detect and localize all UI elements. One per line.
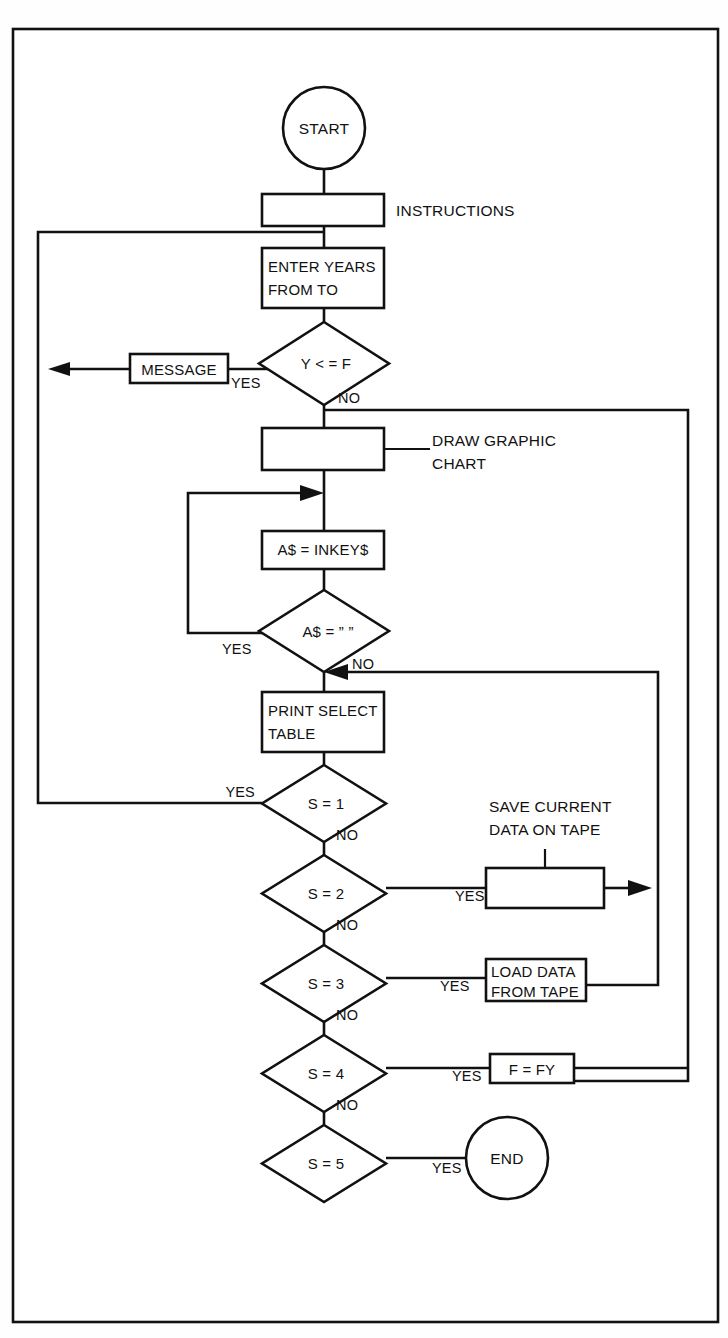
print-select-line2: TABLE xyxy=(268,725,315,742)
instructions-box-shape xyxy=(262,194,384,226)
f-fy-label: F = FY xyxy=(509,1061,556,1078)
load-tape-line1: LOAD DATA xyxy=(491,963,576,980)
node-start[interactable]: START xyxy=(283,87,365,169)
enter-years-line2: FROM TO xyxy=(268,281,338,298)
s3-label: S = 3 xyxy=(308,975,344,992)
save-tape-box-shape xyxy=(486,868,604,908)
flowchart-page: START INSTRUCTIONS ENTER YEARS FROM TO Y… xyxy=(0,0,728,1338)
node-inkey[interactable]: A$ = INKEY$ xyxy=(262,531,384,569)
print-select-line1: PRINT SELECT xyxy=(268,702,378,719)
s1-no-label: NO xyxy=(336,827,358,843)
node-print-select[interactable]: PRINT SELECT TABLE xyxy=(262,692,384,752)
s1-label: S = 1 xyxy=(308,795,344,812)
node-f-fy[interactable]: F = FY xyxy=(490,1054,574,1083)
s2-label: S = 2 xyxy=(308,885,344,902)
s5-label: S = 5 xyxy=(308,1155,344,1172)
s3-no-label: NO xyxy=(336,1007,358,1023)
enter-years-box-shape xyxy=(262,248,384,308)
s4-yes-label: YES xyxy=(452,1068,482,1084)
node-draw-chart[interactable] xyxy=(262,428,384,470)
node-load-tape[interactable]: LOAD DATA FROM TAPE xyxy=(486,959,586,1001)
print-select-box-shape xyxy=(262,692,384,752)
node-save-tape[interactable] xyxy=(486,868,604,908)
start-label: START xyxy=(299,120,350,137)
save-tape-annotation-line1: SAVE CURRENT xyxy=(489,798,612,815)
instructions-annotation: INSTRUCTIONS xyxy=(396,202,515,219)
node-message[interactable]: MESSAGE xyxy=(130,354,228,383)
enter-years-line1: ENTER YEARS xyxy=(268,258,376,275)
message-label: MESSAGE xyxy=(141,361,217,378)
node-enter-years[interactable]: ENTER YEARS FROM TO xyxy=(262,248,384,308)
check-years-yes-label: YES xyxy=(231,375,261,391)
check-key-no-label: NO xyxy=(352,656,374,672)
s3-yes-label: YES xyxy=(440,978,470,994)
s2-no-label: NO xyxy=(336,917,358,933)
end-label: END xyxy=(490,1150,523,1167)
s5-yes-label: YES xyxy=(432,1160,462,1176)
check-years-label: Y < = F xyxy=(301,355,351,372)
draw-chart-annotation-line1: DRAW GRAPHIC xyxy=(432,432,556,449)
save-tape-annotation-line2: DATA ON TAPE xyxy=(489,821,601,838)
draw-chart-box-shape xyxy=(262,428,384,470)
draw-chart-annotation-line2: CHART xyxy=(432,455,486,472)
s4-label: S = 4 xyxy=(308,1065,344,1082)
flowchart-canvas: START INSTRUCTIONS ENTER YEARS FROM TO Y… xyxy=(0,0,728,1338)
check-key-yes-label: YES xyxy=(222,641,252,657)
s2-yes-label: YES xyxy=(455,888,485,904)
inkey-label: A$ = INKEY$ xyxy=(278,541,369,558)
s4-no-label: NO xyxy=(336,1097,358,1113)
check-years-no-label: NO xyxy=(338,390,360,406)
load-tape-line2: FROM TAPE xyxy=(491,983,579,1000)
node-end[interactable]: END xyxy=(466,1117,548,1199)
check-key-label: A$ = ” ” xyxy=(302,623,353,640)
s1-yes-label: YES xyxy=(225,784,255,800)
node-instructions[interactable] xyxy=(262,194,384,226)
